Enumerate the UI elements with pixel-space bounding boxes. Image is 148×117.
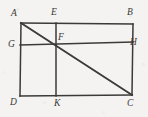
segment-CD — [20, 95, 132, 96]
vertex-label-D: D — [10, 98, 17, 108]
segment-GH — [20, 42, 133, 45]
segment-AB — [21, 23, 133, 24]
vertex-label-C: C — [127, 99, 133, 109]
segment-BC — [132, 24, 133, 95]
vertex-label-B: B — [127, 8, 133, 18]
vertex-label-E: E — [51, 8, 57, 18]
figure-canvas — [0, 0, 148, 117]
vertex-label-G: G — [8, 40, 15, 50]
vertex-label-H: H — [130, 38, 137, 48]
vertex-label-A: A — [11, 9, 17, 19]
geometry-figure: A E B G F H D K C — [0, 0, 148, 117]
segment-AC-diagonal — [21, 23, 132, 95]
vertex-label-F: F — [58, 33, 64, 43]
vertex-label-K: K — [54, 99, 60, 109]
segment-DA — [20, 23, 21, 96]
